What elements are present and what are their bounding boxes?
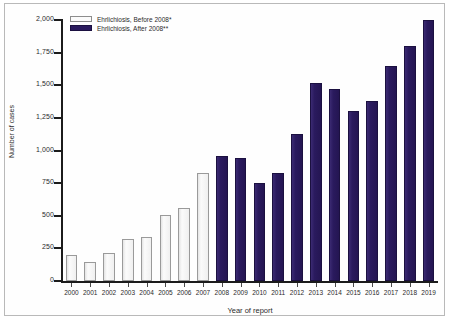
y-axis-tick <box>54 52 62 54</box>
bar-2007 <box>197 173 209 281</box>
chart-legend: Ehrlichiosis, Before 2008*Ehrlichiosis, … <box>70 15 200 33</box>
y-axis-tick-label: 2,000 <box>6 15 54 22</box>
bar-2002 <box>103 253 115 281</box>
x-axis-tick <box>71 283 72 287</box>
y-axis-tick <box>54 19 62 21</box>
x-axis-tick <box>109 283 110 287</box>
bar-2017 <box>385 66 397 281</box>
chart-figure: 02505007501,0001,2501,5001,7502,000 Numb… <box>0 0 451 323</box>
y-axis-tick <box>54 150 62 152</box>
y-axis-tick <box>54 247 62 249</box>
bar-2000 <box>66 255 78 281</box>
x-axis-tick <box>90 283 91 287</box>
legend-swatch-icon <box>70 16 92 22</box>
legend-label: Ehrlichiosis, Before 2008* <box>97 16 171 23</box>
y-axis-label-slot: 0 <box>0 276 54 285</box>
bar-2009 <box>235 158 247 281</box>
y-axis-label-slot: 250 <box>0 243 54 252</box>
y-axis-tick <box>54 215 62 217</box>
y-axis-tick <box>54 280 62 282</box>
x-axis-tick <box>184 283 185 287</box>
y-axis-label-slot: 500 <box>0 211 54 220</box>
bar-2005 <box>160 215 172 281</box>
x-axis-tick <box>353 283 354 287</box>
legend-item: Ehrlichiosis, Before 2008* <box>70 15 200 23</box>
y-axis-label-slot: 2,000 <box>0 15 54 24</box>
x-axis-tick <box>316 283 317 287</box>
x-axis-tick <box>297 283 298 287</box>
legend-label: Ehrlichiosis, After 2008** <box>97 25 168 32</box>
bar-2004 <box>141 237 153 281</box>
y-axis-label-slot: 1,750 <box>0 48 54 57</box>
bar-2011 <box>272 173 284 281</box>
bar-2003 <box>122 239 134 281</box>
bar-2001 <box>84 262 96 281</box>
x-axis-tick <box>278 283 279 287</box>
bar-2013 <box>310 83 322 281</box>
x-axis-tick <box>429 283 430 287</box>
x-axis-tick <box>372 283 373 287</box>
x-axis-tick <box>147 283 148 287</box>
x-axis-tick <box>128 283 129 287</box>
x-axis-title: Year of report <box>62 306 438 315</box>
x-axis-tick <box>391 283 392 287</box>
bar-2014 <box>329 89 341 281</box>
legend-swatch-icon <box>70 25 92 31</box>
bar-2010 <box>254 183 266 281</box>
x-axis-tick-label-2019: 2019 <box>414 289 444 296</box>
legend-item: Ehrlichiosis, After 2008** <box>70 24 200 32</box>
y-axis-tick <box>54 117 62 119</box>
x-axis-tick <box>222 283 223 287</box>
x-axis-tick <box>410 283 411 287</box>
x-axis-tick <box>259 283 260 287</box>
x-axis-tick <box>165 283 166 287</box>
bar-2012 <box>291 134 303 281</box>
bar-2008 <box>216 156 228 281</box>
y-axis-tick-label: 250 <box>6 243 54 250</box>
x-axis-line <box>61 281 438 283</box>
bar-2015 <box>348 111 360 281</box>
bar-2018 <box>404 46 416 281</box>
x-axis-tick <box>203 283 204 287</box>
bar-2019 <box>423 20 435 281</box>
bar-2006 <box>178 208 190 281</box>
y-axis-tick-label: 1,750 <box>6 48 54 55</box>
x-axis-tick <box>241 283 242 287</box>
bar-2016 <box>366 101 378 281</box>
x-axis-tick <box>335 283 336 287</box>
y-axis-title: Number of cases <box>8 77 15 187</box>
y-axis-tick-label: 0 <box>6 276 54 283</box>
plot-area <box>62 20 438 281</box>
bar-series-container <box>62 20 438 281</box>
y-axis-tick-label: 500 <box>6 211 54 218</box>
y-axis-tick <box>54 182 62 184</box>
y-axis-tick <box>54 84 62 86</box>
